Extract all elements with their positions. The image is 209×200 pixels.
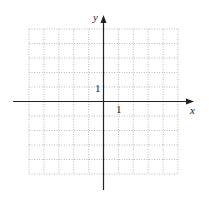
x-axis-label: x [190,105,195,116]
y-tick-label: 1 [95,83,101,94]
y-axis-arrow-icon [101,15,107,23]
y-axis-label: y [93,12,98,23]
coordinate-grid [0,0,209,200]
x-tick-label: 1 [116,104,122,115]
